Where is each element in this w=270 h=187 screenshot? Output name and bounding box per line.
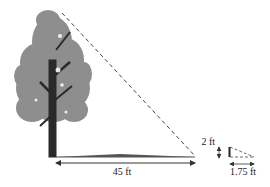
- similar-triangles-diagram: 45 ft 2 ft 1.75 ft: [0, 0, 270, 187]
- stick-height-label: 2 ft: [201, 136, 215, 147]
- tree: [14, 10, 92, 157]
- tree-shadow-label: 45 ft: [113, 166, 132, 177]
- stick-sun-ray-dashed: [230, 147, 254, 157]
- stick-shadow-label: 1.75 ft: [230, 166, 256, 177]
